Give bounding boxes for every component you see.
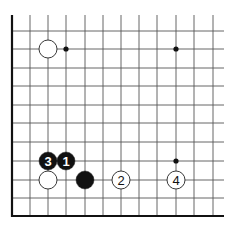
stones: 1234: [39, 40, 185, 189]
black-stone-3: 3: [39, 152, 57, 170]
black-stone-1: 1: [57, 152, 75, 170]
move-number-label: 3: [44, 154, 51, 169]
star-point-icon: [173, 158, 178, 163]
move-number-label: 4: [172, 173, 179, 188]
white-stone-2: 2: [112, 171, 130, 189]
star-point-icon: [173, 46, 178, 51]
white-stone: [39, 40, 57, 58]
move-number-label: 1: [62, 154, 69, 169]
black-stone: [76, 171, 94, 189]
white-stone-4: 4: [167, 171, 185, 189]
star-point-icon: [63, 46, 68, 51]
white-stone: [39, 171, 57, 189]
move-number-label: 2: [117, 173, 124, 188]
go-board: 1234: [0, 0, 231, 227]
